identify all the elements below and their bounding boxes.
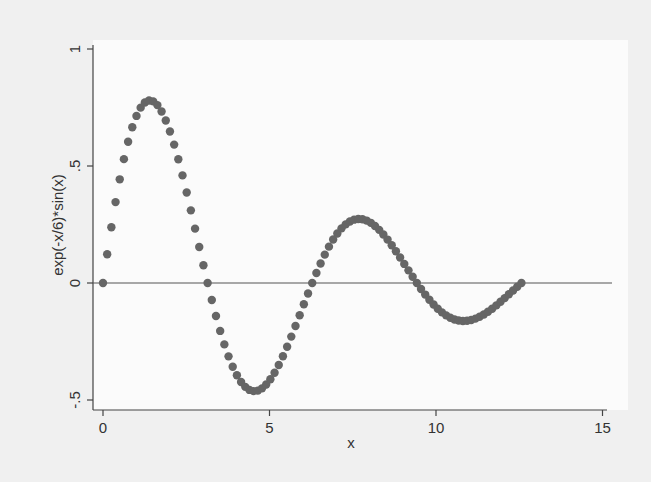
data-point — [199, 261, 207, 269]
data-point — [132, 112, 140, 120]
data-point — [99, 279, 107, 287]
data-point — [157, 107, 165, 115]
data-point — [308, 279, 316, 287]
data-point — [107, 223, 115, 231]
data-point — [220, 340, 228, 348]
data-point — [120, 155, 128, 163]
y-tick-label: .5 — [66, 160, 83, 173]
y-tick-label: 0 — [66, 279, 83, 287]
data-point — [191, 224, 199, 232]
data-point — [178, 171, 186, 179]
data-point — [224, 352, 232, 360]
data-point — [212, 312, 220, 320]
data-point — [216, 327, 224, 335]
y-tick-label: 1 — [66, 45, 83, 53]
data-point — [128, 123, 136, 131]
data-point — [111, 198, 119, 206]
data-point — [283, 343, 291, 351]
data-point — [203, 279, 211, 287]
y-axis-title: exp(-x/6)*sin(x) — [49, 174, 66, 276]
data-point — [195, 243, 203, 251]
x-tick-label: 0 — [99, 419, 107, 436]
data-point — [103, 250, 111, 258]
data-point — [182, 188, 190, 196]
data-point — [208, 296, 216, 304]
data-point — [287, 332, 295, 340]
data-point — [229, 362, 237, 370]
x-tick-label: 10 — [428, 419, 445, 436]
x-tick-label: 5 — [265, 419, 273, 436]
data-point — [174, 155, 182, 163]
x-axis-title: x — [347, 434, 355, 451]
data-point — [166, 127, 174, 135]
data-point — [116, 175, 124, 183]
data-point — [295, 311, 303, 319]
data-point — [270, 369, 278, 377]
data-point — [124, 138, 132, 146]
plot-area — [93, 40, 628, 410]
data-point — [162, 116, 170, 124]
data-point — [170, 140, 178, 148]
chart-container: -.50.51051015xexp(-x/6)*sin(x) — [0, 0, 651, 482]
scatter-plot: -.50.51051015xexp(-x/6)*sin(x) — [0, 0, 651, 482]
data-point — [517, 279, 525, 287]
data-point — [300, 300, 308, 308]
data-point — [275, 361, 283, 369]
data-point — [187, 206, 195, 214]
x-tick-label: 15 — [594, 419, 611, 436]
data-point — [312, 269, 320, 277]
data-point — [325, 242, 333, 250]
data-point — [304, 289, 312, 297]
y-tick-label: -.5 — [66, 391, 83, 409]
data-point — [279, 352, 287, 360]
data-point — [321, 250, 329, 258]
data-point — [291, 322, 299, 330]
data-point — [316, 259, 324, 267]
